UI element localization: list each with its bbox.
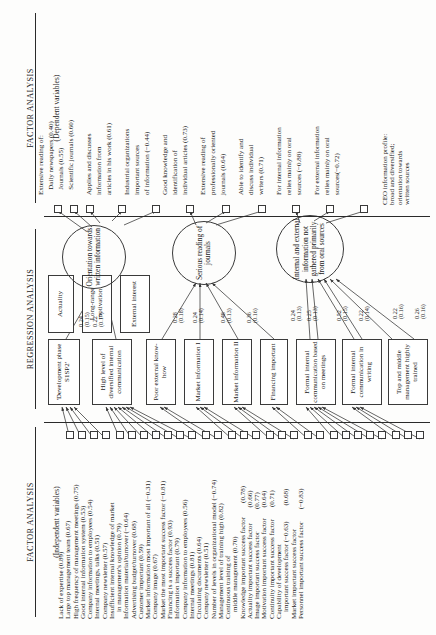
path-coefficient: 0.22 (0.17) <box>86 312 110 333</box>
coef-se: (0.14) <box>198 308 204 323</box>
dependent-label: For internal information <box>276 127 283 195</box>
list-item: Personnel important success factor (−0.8… <box>298 443 305 619</box>
regression-box: Market information II <box>222 339 252 405</box>
dependent-label: identification of <box>172 150 179 195</box>
coef-se: (0.16) <box>252 308 258 323</box>
dependent-label: Scientific journals (0.60) <box>68 120 75 195</box>
indicator-square <box>360 205 368 213</box>
header-center-rule <box>35 229 36 409</box>
indicator-square <box>66 431 74 439</box>
dependent-label: relies mainly on oral <box>286 137 293 195</box>
caption-line: written sources <box>404 25 411 205</box>
indicator-square <box>304 431 312 439</box>
latent-factor: Internal and external information not ga… <box>276 215 344 283</box>
regression-box: 'Development phase S1SP2' <box>48 339 80 405</box>
indicator-square <box>222 205 230 213</box>
coef-se: (0.15) <box>342 306 348 321</box>
dependent-label: important sources <box>134 145 141 195</box>
indicator-square <box>90 431 98 439</box>
independent-variable-list: Lack of expertise (0.89) Large top manag… <box>58 443 305 619</box>
indicator-square <box>266 431 274 439</box>
indicator-square <box>416 431 424 439</box>
indicator-square <box>278 431 286 439</box>
indicator-square <box>118 205 126 213</box>
dependent-label: Extensive reading of <box>200 137 207 195</box>
dependent-label: Able to identify and <box>238 139 245 195</box>
indicator-square <box>152 431 160 439</box>
coef-se: (0.16) <box>398 304 404 319</box>
indicator-square <box>186 205 194 213</box>
indicator-square <box>292 205 300 213</box>
dependent-label: journals (0.64) <box>220 154 227 195</box>
dependent-label: sources(−0.72) <box>334 153 341 195</box>
regression-box: Formal internal communication in writing <box>342 339 382 405</box>
path-coefficient: 0.22 (0.16) <box>386 304 410 325</box>
dependent-label: discuss individual <box>248 145 255 195</box>
column-divider-left <box>44 422 430 423</box>
dependent-label: relies mainly on oral <box>324 137 331 195</box>
indicator-square <box>164 431 172 439</box>
dependent-label: Applies and discusses <box>86 134 93 195</box>
indicator-square <box>366 431 374 439</box>
regression-box: Market information I <box>184 339 214 405</box>
dependent-label: Daily newspapers (0.40) <box>48 121 55 195</box>
path-coefficient: 0.25 (0.13) <box>300 306 324 327</box>
path-coefficient: 0.52 (0.15) <box>330 306 354 327</box>
dependent-label: information from <box>96 147 103 195</box>
indicator-square <box>54 205 62 213</box>
header-left-rule <box>35 427 36 617</box>
coef-se: (0.14) <box>364 306 370 321</box>
indicator-square <box>326 205 334 213</box>
indicator-square <box>392 431 400 439</box>
indicator-square <box>330 431 338 439</box>
header-center: REGRESSION ANALYSIS <box>10 229 53 409</box>
indicator-square <box>78 431 86 439</box>
path-diagram-canvas: FACTOR ANALYSIS (Independent variables) … <box>0 0 436 635</box>
path-coefficient: 0.24 (0.14) <box>186 308 210 329</box>
regression-box: Poor external know-how <box>146 339 176 405</box>
regression-box: Top and middle management highly trained <box>388 339 428 405</box>
path-coefficient: 0.48 (0.13) <box>214 308 238 329</box>
latent-factor: Serious reading of journals <box>172 221 236 285</box>
dependent-label: For external information <box>314 126 321 195</box>
indicator-square <box>116 431 124 439</box>
rotated-figure-container: FACTOR ANALYSIS (Independent variables) … <box>0 0 436 635</box>
dependent-label: Industrial organizations <box>124 129 131 195</box>
indicator-square <box>228 431 236 439</box>
indicator-square <box>202 431 210 439</box>
indicator-square <box>316 431 324 439</box>
coef-se: (0.16) <box>420 304 426 319</box>
indicator-square <box>378 431 386 439</box>
path-coefficient: 0.22 (0.14) <box>352 306 376 327</box>
column-divider-right <box>44 216 430 217</box>
regression-box: External interest <box>120 275 150 333</box>
path-coefficient: 0.26 (0.16) <box>408 304 432 325</box>
regression-box: Actuality <box>48 275 74 333</box>
dependent-label: Good knowledge and <box>162 135 169 195</box>
indicator-square <box>152 205 160 213</box>
dependent-label: Extensive reading of: <box>38 135 45 195</box>
indicator-square <box>140 431 148 439</box>
indicator-square <box>404 431 412 439</box>
indicator-square <box>290 431 298 439</box>
indicator-square <box>70 205 78 213</box>
indicator-square <box>342 431 350 439</box>
regression-box: Financing important <box>260 339 288 405</box>
indicator-square <box>176 431 184 439</box>
indicator-square <box>354 431 362 439</box>
indicator-square <box>214 431 222 439</box>
coef-se: (0.18) <box>178 308 184 323</box>
coef-se: (0.17) <box>98 312 104 327</box>
dependent-label: professionally oriented <box>210 131 217 195</box>
indicator-square <box>128 431 136 439</box>
caption-block: CEO information profile: broad and diver… <box>382 25 411 205</box>
path-coefficient: 0.36 (0.16) <box>240 308 264 329</box>
coef-se: (0.13) <box>226 308 232 323</box>
dependent-label: articles in his work (0.61) <box>106 123 113 195</box>
indicator-square <box>188 431 196 439</box>
indicator-square <box>102 431 110 439</box>
regression-box: Formal internal communication based on m… <box>296 339 336 405</box>
dependent-label: sources (−0.88) <box>296 151 303 195</box>
latent-factor: Orientation towards written information <box>62 225 126 289</box>
dependent-label: of information (−0.44) <box>144 132 151 195</box>
